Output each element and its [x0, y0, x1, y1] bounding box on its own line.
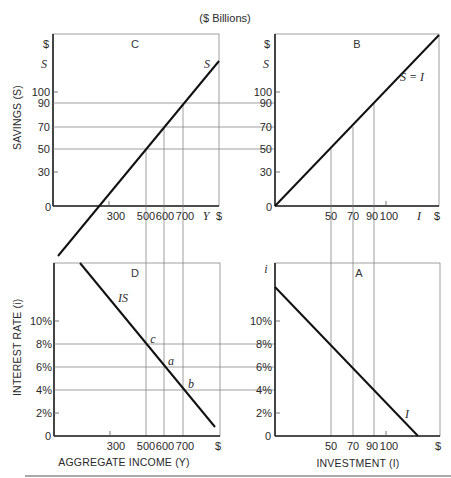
svg-text:8%: 8% — [36, 338, 52, 350]
svg-text:I: I — [416, 209, 422, 223]
svg-text:6%: 6% — [256, 361, 272, 373]
panel-a-label: A — [355, 267, 363, 279]
svg-text:70: 70 — [260, 121, 272, 133]
svg-text:700: 700 — [176, 210, 194, 222]
panel-c: C $ S S 100 90 70 50 30 0 300 500 600 70… — [11, 34, 275, 436]
investment-axis-title: INVESTMENT (I) — [316, 457, 399, 469]
svg-text:2%: 2% — [256, 407, 272, 419]
aggregate-income-axis-title: AGGREGATE INCOME (Y) — [58, 456, 190, 468]
svg-text:6%: 6% — [36, 361, 52, 373]
svg-text:70: 70 — [347, 210, 359, 222]
is-curve-derivation-diagram: ($ Billions) C $ S S 100 90 70 50 30 0 3… — [0, 0, 451, 478]
panel-d-label: D — [131, 267, 139, 279]
svg-text:$: $ — [434, 210, 440, 222]
svg-text:10%: 10% — [30, 315, 52, 327]
savings-function-line — [58, 61, 219, 256]
svg-text:700: 700 — [176, 440, 194, 452]
svg-text:50: 50 — [325, 440, 337, 452]
point-label-b: b — [188, 377, 194, 391]
svg-text:300: 300 — [107, 440, 125, 452]
curve-label-s: S — [204, 57, 210, 71]
investment-demand-line — [275, 287, 418, 436]
svg-text:300: 300 — [107, 210, 125, 222]
panel-a: A i I 10% 8% 6% 4% 2% 0 50 70 90 100 $ I… — [250, 262, 441, 469]
svg-text:0: 0 — [265, 430, 271, 442]
svg-text:8%: 8% — [256, 338, 272, 350]
curve-label-s-eq-i: S = I — [400, 70, 425, 84]
panel-c-y-dollar: $ — [43, 38, 49, 50]
point-label-a: a — [168, 354, 174, 368]
point-label-c: c — [150, 332, 156, 346]
curve-label-i: I — [404, 407, 410, 421]
svg-text:0: 0 — [266, 201, 272, 213]
svg-text:70: 70 — [38, 121, 50, 133]
svg-text:90: 90 — [366, 210, 378, 222]
svg-text:i: i — [264, 262, 267, 276]
svg-text:100: 100 — [380, 440, 398, 452]
svg-text:30: 30 — [260, 166, 272, 178]
s-equals-i-line — [275, 35, 439, 206]
svg-text:50: 50 — [260, 143, 272, 155]
svg-text:50: 50 — [38, 143, 50, 155]
svg-text:90: 90 — [38, 97, 50, 109]
svg-text:100: 100 — [380, 210, 398, 222]
units-label: ($ Billions) — [199, 12, 250, 24]
svg-text:500: 500 — [137, 440, 155, 452]
svg-text:$: $ — [215, 440, 221, 452]
svg-text:600: 600 — [156, 440, 174, 452]
svg-text:90: 90 — [366, 440, 378, 452]
svg-text:$: $ — [216, 210, 222, 222]
panel-a-frame — [275, 263, 440, 436]
svg-text:90: 90 — [260, 97, 272, 109]
svg-text:0: 0 — [45, 430, 51, 442]
svg-text:10%: 10% — [250, 315, 272, 327]
svg-text:S: S — [263, 57, 269, 71]
panel-b: B $ S S = I 100 90 70 50 30 0 50 70 90 1… — [254, 34, 440, 436]
svg-text:2%: 2% — [36, 407, 52, 419]
svg-text:70: 70 — [347, 440, 359, 452]
svg-text:Y: Y — [203, 209, 211, 223]
panel-b-label: B — [353, 38, 360, 50]
svg-text:$: $ — [264, 38, 270, 50]
savings-axis-title: SAVINGS (S) — [11, 85, 23, 150]
svg-text:600: 600 — [156, 210, 174, 222]
svg-text:500: 500 — [137, 210, 155, 222]
svg-text:50: 50 — [325, 210, 337, 222]
svg-text:4%: 4% — [36, 384, 52, 396]
interest-rate-axis-title: INTEREST RATE (i) — [11, 298, 23, 396]
svg-text:$: $ — [435, 440, 441, 452]
panel-c-label: C — [131, 38, 139, 50]
svg-text:30: 30 — [38, 166, 50, 178]
svg-text:4%: 4% — [256, 384, 272, 396]
panel-c-y-var: S — [41, 57, 47, 71]
svg-text:0: 0 — [45, 201, 51, 213]
curve-label-is: IS — [117, 291, 128, 305]
panel-d: D IS c a b 10% 8% 6% 4% 2% 0 300 500 600… — [11, 263, 275, 468]
panel-d-frame — [54, 263, 220, 436]
panel-c-frame — [53, 34, 219, 206]
is-curve-line — [80, 263, 215, 427]
